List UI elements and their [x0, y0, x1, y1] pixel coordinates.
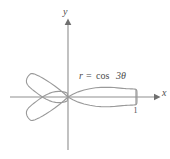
equation-argument: 3θ [115, 70, 126, 81]
y-axis-arrowhead-icon [65, 19, 72, 26]
equation-label: r = cos 3θ [79, 70, 126, 81]
y-axis-label: y [62, 6, 68, 17]
x-axis-arrowhead-icon [154, 94, 161, 101]
polar-rose-figure: y x 1 r = cos 3θ [0, 0, 170, 159]
rose-petal-upper-left [26, 74, 68, 103]
equation-equals-sign: = [86, 70, 92, 81]
x-tick-label-1: 1 [134, 106, 138, 115]
equation-function-name: cos [96, 70, 109, 81]
figure-canvas: y x 1 r = cos 3θ [0, 0, 170, 159]
x-axis-label: x [161, 87, 167, 98]
equation-variable: r [79, 70, 83, 81]
rose-petal-lower-left [26, 91, 68, 120]
